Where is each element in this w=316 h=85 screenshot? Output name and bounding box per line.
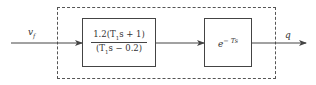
numerator: 1.2(T1s + 1) — [91, 30, 147, 43]
input-signal-label: vf — [28, 27, 35, 39]
transfer-function-block: 1.2(T1s + 1) (T1s − 0.2) — [82, 18, 156, 67]
transfer-function-fraction: 1.2(T1s + 1) (T1s − 0.2) — [91, 30, 147, 54]
delay-expression: e− Ts — [218, 37, 238, 49]
denominator: (T1s − 0.2) — [94, 43, 144, 55]
delay-block: e− Ts — [204, 18, 252, 67]
output-signal-label: q — [285, 30, 291, 40]
signal-wires — [0, 0, 316, 85]
